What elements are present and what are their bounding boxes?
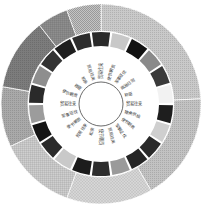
category-label: 使节朝贡 — [98, 129, 105, 145]
middle-ring-segment — [92, 162, 110, 176]
middle-ring-segment — [92, 32, 110, 46]
inner-circle — [79, 82, 123, 126]
category-label: 贸易往来 — [97, 62, 104, 79]
middle-ring-segment — [29, 85, 45, 103]
middle-ring-segment — [29, 105, 45, 123]
middle-ring-segment — [157, 85, 173, 103]
category-label: 贸易往来 — [60, 100, 77, 107]
category-label: 贸易往来 — [126, 100, 143, 107]
middle-ring-segment — [157, 105, 173, 123]
circular-diagram: 贸易往来使节朝贡军事征伐政治归附称臣贸易往来物资供给使节朝贡军事征伐贸易往来使节… — [0, 0, 203, 207]
